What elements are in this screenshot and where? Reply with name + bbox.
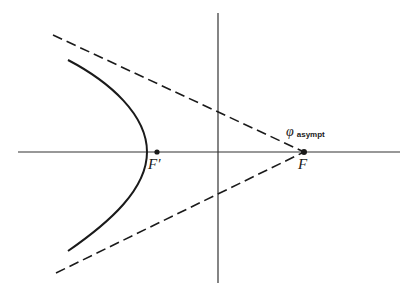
focus-f-point [301, 149, 307, 155]
phi-subscript: asympt [297, 130, 325, 139]
focus-f-prime-point [154, 149, 159, 154]
focus-f-label: F [298, 157, 307, 172]
upper-asymptote [53, 35, 304, 152]
lower-asymptote [56, 152, 304, 273]
focus-f-prime-label: F′ [148, 157, 160, 172]
asymptote-angle-label: φasympt [286, 125, 325, 139]
phi-symbol: φ [286, 124, 294, 139]
hyperbola-diagram [0, 0, 417, 298]
hyperbola-branch [68, 60, 147, 251]
